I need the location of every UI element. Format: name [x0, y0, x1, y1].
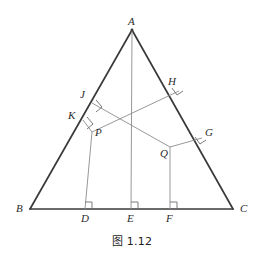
figure-caption: 图 1.12 — [0, 232, 264, 248]
perpendicular-PD-line — [85, 132, 92, 209]
right-angle-marks — [85, 88, 206, 209]
right-angle-at-D — [85, 202, 92, 209]
label-A: A — [128, 16, 135, 27]
label-D: D — [81, 213, 89, 224]
label-Q: Q — [160, 148, 168, 159]
label-J: J — [80, 89, 85, 100]
label-E: E — [127, 213, 134, 224]
altitude-AE-line — [131, 30, 132, 209]
label-C: C — [240, 203, 247, 214]
figure-container: A B C D E F P Q J K H G 图 1.12 — [0, 0, 264, 260]
perpendicular-PH-line — [92, 91, 179, 132]
right-angle-at-E — [131, 202, 138, 209]
right-angle-at-F — [170, 202, 177, 209]
construction-lines — [83, 30, 202, 209]
label-H: H — [168, 76, 176, 87]
label-P: P — [95, 127, 102, 138]
side-AC-line — [132, 30, 233, 209]
label-F: F — [166, 213, 173, 224]
vertex-dots — [131, 29, 134, 32]
label-G: G — [205, 127, 213, 138]
side-AB-line — [30, 30, 132, 209]
label-K: K — [68, 110, 75, 121]
dot-A — [131, 29, 134, 32]
label-B: B — [16, 203, 23, 214]
